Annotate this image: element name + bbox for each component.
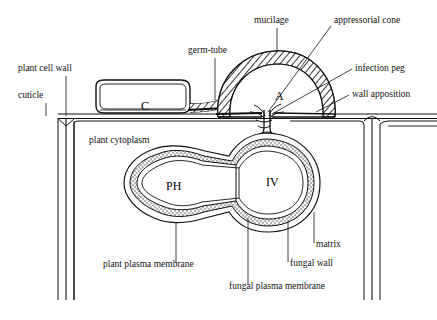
label-appressorium: A <box>275 90 284 102</box>
label-infection-vesicle: IV <box>266 176 279 188</box>
haustorial-complex <box>124 132 320 232</box>
callout-infection-peg: infection peg <box>355 64 405 74</box>
callout-cuticle: cuticle <box>18 91 43 101</box>
callout-plant-cell-wall: plant cell wall <box>18 64 72 74</box>
label-conidium: C <box>141 100 149 112</box>
callout-plant-plasma-membrane: plant plasma membrane <box>103 260 194 270</box>
label-primary-haustorium: PH <box>166 180 181 192</box>
figure-canvas: C A PH IV plant cell wall cuticle germ-t… <box>0 0 437 320</box>
callout-germ-tube: germ-tube <box>188 46 227 56</box>
callout-plant-cytoplasm: plant cytoplasm <box>89 136 149 146</box>
callout-wall-apposition: wall apposition <box>352 90 410 100</box>
callout-matrix: matrix <box>316 240 341 250</box>
callout-appressorial-cone: appressorial cone <box>334 16 400 26</box>
callout-fungal-plasma-membrane: fungal plasma membrane <box>229 282 325 292</box>
callout-mucilage: mucilage <box>254 16 289 26</box>
callout-fungal-wall: fungal wall <box>290 259 333 269</box>
